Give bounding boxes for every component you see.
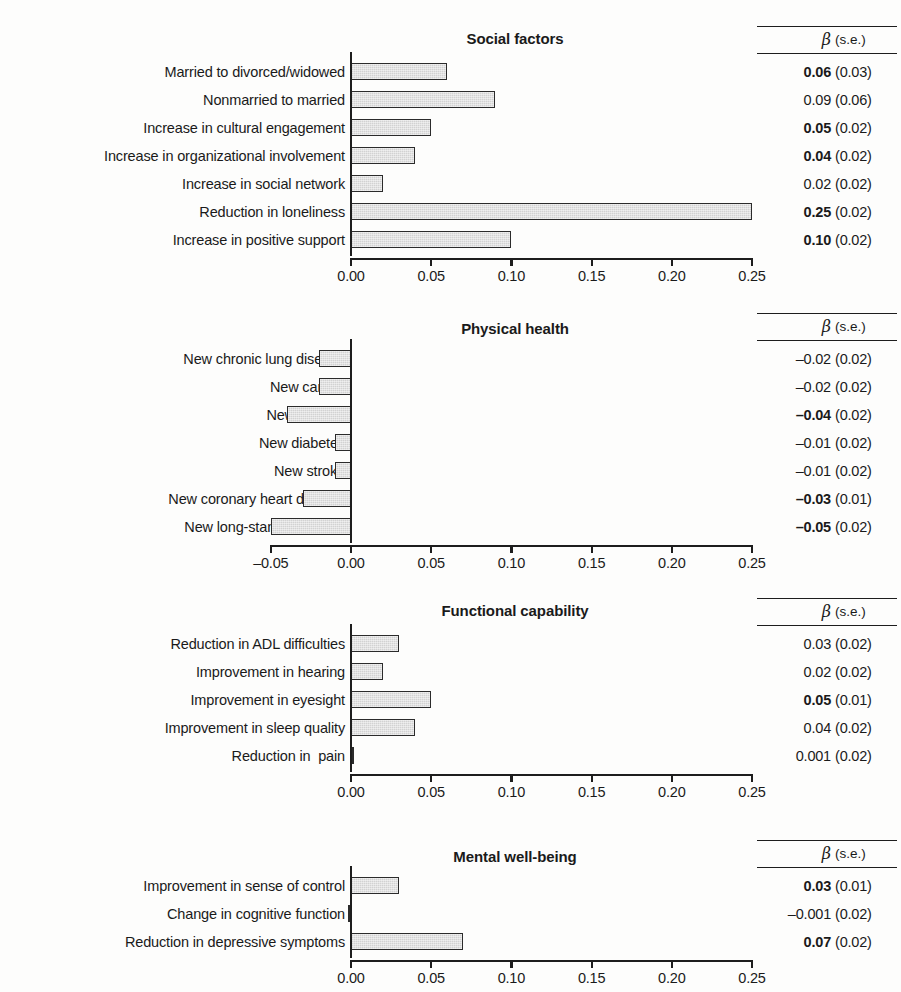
x-tick-label: 0.20 (642, 268, 702, 284)
beta-value: 0.04 (757, 714, 831, 742)
category-label: Improvement in sense of control (0, 872, 345, 900)
x-tick (510, 960, 512, 968)
bar (351, 663, 383, 680)
se-value: (0.02) (835, 226, 897, 254)
x-tick (430, 258, 432, 266)
panel-title: Physical health (355, 320, 675, 337)
figure-root: Social factorsMarried to divorced/widowe… (0, 0, 901, 992)
beta-column-header: β (757, 844, 831, 863)
se-column-header: (s.e.) (835, 32, 897, 47)
stats-row: 0.02(0.02) (757, 658, 897, 686)
beta-value: –0.03 (757, 485, 831, 513)
x-tick (671, 545, 673, 553)
bar (335, 462, 351, 479)
beta-value: –0.01 (757, 457, 831, 485)
x-tick-label: 0.00 (321, 555, 381, 571)
category-label: New chronic lung disease (0, 345, 345, 373)
beta-value: 0.03 (757, 630, 831, 658)
stats-table: β(s.e.)0.03(0.02)0.02(0.02)0.05(0.01)0.0… (757, 598, 897, 626)
bar (351, 63, 447, 80)
zero-axis-line (350, 624, 352, 772)
stats-header: β(s.e.) (757, 840, 897, 868)
x-tick-label: 0.10 (481, 784, 541, 800)
se-value: (0.02) (835, 742, 897, 770)
category-label: Nonmarried to married (0, 86, 345, 114)
category-label: Married to divorced/widowed (0, 58, 345, 86)
x-axis (351, 960, 752, 962)
beta-value: 0.07 (757, 928, 831, 956)
stats-row: 0.02(0.02) (757, 170, 897, 198)
se-value: (0.02) (835, 630, 897, 658)
stats-row: –0.001(0.02) (757, 900, 897, 928)
category-label: Increase in positive support (0, 226, 345, 254)
se-value: (0.02) (835, 928, 897, 956)
bar (287, 406, 351, 423)
x-tick-label: 0.25 (722, 970, 782, 986)
stats-row: 0.05(0.01) (757, 686, 897, 714)
x-tick-label: 0.15 (562, 784, 622, 800)
stats-row: –0.01(0.02) (757, 429, 897, 457)
panel-title: Mental well-being (355, 848, 675, 865)
zero-axis-line (350, 52, 352, 256)
x-tick-label: 0.10 (481, 555, 541, 571)
beta-value: 0.02 (757, 170, 831, 198)
x-tick-label: 0.05 (401, 268, 461, 284)
category-label: New stroke (0, 457, 345, 485)
x-tick-label: –0.05 (241, 555, 301, 571)
bar (351, 175, 383, 192)
category-label: Reduction in ADL difficulties (0, 630, 345, 658)
x-tick (430, 960, 432, 968)
se-value: (0.02) (835, 401, 897, 429)
x-tick-label: 0.10 (481, 268, 541, 284)
stats-row: 0.04(0.02) (757, 714, 897, 742)
x-tick (591, 545, 593, 553)
beta-value: –0.04 (757, 401, 831, 429)
se-value: (0.01) (835, 872, 897, 900)
category-label: Increase in social network (0, 170, 345, 198)
se-column-header: (s.e.) (835, 604, 897, 619)
category-label: Improvement in eyesight (0, 686, 345, 714)
category-label: Reduction in pain (0, 742, 345, 770)
x-tick-label: 0.15 (562, 970, 622, 986)
x-tick (430, 545, 432, 553)
se-column-header: (s.e.) (835, 319, 897, 334)
bar (271, 518, 351, 535)
x-tick (350, 960, 352, 968)
panel-title: Functional capability (355, 602, 675, 619)
stats-rows: 0.03(0.02)0.02(0.02)0.05(0.01)0.04(0.02)… (757, 630, 897, 770)
se-value: (0.02) (835, 513, 897, 541)
x-axis (351, 258, 752, 260)
beta-value: –0.05 (757, 513, 831, 541)
stats-row: –0.01(0.02) (757, 457, 897, 485)
se-column-header: (s.e.) (835, 846, 897, 861)
beta-value: 0.001 (757, 742, 831, 770)
zero-axis-line (350, 866, 352, 958)
se-value: (0.02) (835, 142, 897, 170)
x-tick-label: 0.25 (722, 784, 782, 800)
panel-title: Social factors (355, 30, 675, 47)
x-tick (350, 774, 352, 782)
stats-rows: 0.03(0.01)–0.001(0.02)0.07(0.02) (757, 872, 897, 956)
bar (351, 119, 431, 136)
stats-row: –0.03(0.01) (757, 485, 897, 513)
x-tick-label: 0.00 (321, 268, 381, 284)
stats-row: 0.09(0.06) (757, 86, 897, 114)
category-label: Reduction in depressive symptoms (0, 928, 345, 956)
category-label: New coronary heart disease (0, 485, 345, 513)
x-tick-label: 0.20 (642, 555, 702, 571)
bar (319, 378, 351, 395)
x-tick (751, 545, 753, 553)
stats-row: 0.03(0.02) (757, 630, 897, 658)
x-tick (751, 258, 753, 266)
se-value: (0.06) (835, 86, 897, 114)
x-tick-label: 0.15 (562, 268, 622, 284)
x-tick (350, 258, 352, 266)
bar (351, 877, 399, 894)
x-tick-label: 0.10 (481, 970, 541, 986)
beta-value: –0.01 (757, 429, 831, 457)
stats-header: β(s.e.) (757, 26, 897, 54)
bar (351, 231, 511, 248)
stats-table: β(s.e.)–0.02(0.02)–0.02(0.02)–0.04(0.02)… (757, 313, 897, 341)
x-tick (591, 774, 593, 782)
stats-table: β(s.e.)0.06(0.03)0.09(0.06)0.05(0.02)0.0… (757, 26, 897, 54)
